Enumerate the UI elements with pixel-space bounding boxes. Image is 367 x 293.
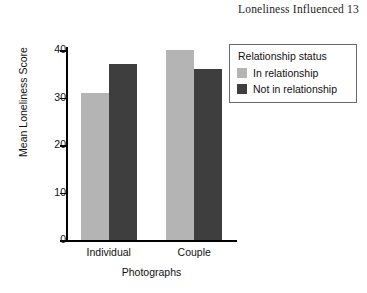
x-axis-title: Photographs: [66, 266, 237, 278]
legend-item: Not in relationship: [237, 83, 349, 95]
legend-label: In relationship: [253, 67, 318, 79]
bar: [109, 64, 137, 240]
x-tick-label: Individual: [64, 246, 154, 258]
bar: [166, 50, 194, 240]
bar: [194, 69, 222, 240]
y-tick-label: 30: [44, 91, 66, 103]
bar: [81, 93, 109, 240]
y-axis-title: Mean Loneliness Score: [17, 17, 29, 187]
legend-title: Relationship status: [238, 50, 349, 62]
x-axis-line: [66, 240, 237, 242]
legend-label: Not in relationship: [253, 83, 337, 95]
legend-item: In relationship: [237, 67, 349, 79]
y-tick-label: 20: [44, 138, 66, 150]
bar-chart: 010203040 Mean Loneliness Score Individu…: [0, 0, 367, 293]
y-tick-label: 0: [44, 233, 66, 245]
y-tick-label: 40: [44, 43, 66, 55]
legend: Relationship status In relationshipNot i…: [229, 44, 357, 103]
y-axis-line: [66, 47, 68, 241]
legend-swatch-icon: [237, 84, 247, 94]
y-tick-label: 10: [44, 186, 66, 198]
x-tick-label: Couple: [149, 246, 239, 258]
legend-swatch-icon: [237, 68, 247, 78]
figure-page: Loneliness Influenced 13 010203040 Mean …: [0, 0, 367, 293]
legend-entries: In relationshipNot in relationship: [237, 67, 349, 95]
